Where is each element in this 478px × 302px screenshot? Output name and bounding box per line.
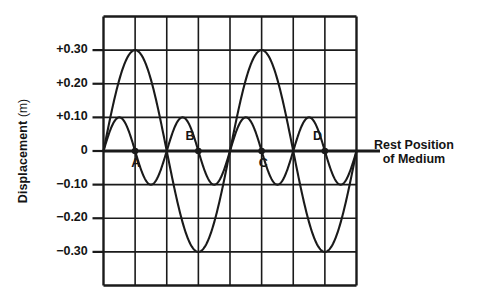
rest-position-line1: Rest Position — [374, 138, 454, 152]
wave-point-marker — [132, 148, 139, 155]
rest-position-line2: of Medium — [374, 152, 454, 166]
wave-displacement-figure: Displacement (m) +0.30+0.20+0.100−0.10−0… — [0, 0, 478, 302]
rest-position-label: Rest Position of Medium — [374, 138, 454, 166]
wave-point-marker — [322, 148, 329, 155]
wave-point-marker — [258, 148, 265, 155]
wave-point-marker — [195, 148, 202, 155]
